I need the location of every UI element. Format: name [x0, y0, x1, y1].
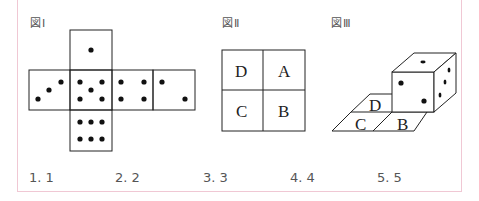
die-net	[29, 30, 195, 151]
choice-1[interactable]: 1. 1	[29, 170, 54, 185]
grid-cell-b: B	[278, 102, 289, 121]
net-face-right1	[112, 70, 153, 110]
choice-5[interactable]: 5. 5	[377, 170, 402, 185]
floor-cell-c: C	[355, 115, 366, 134]
choice-2[interactable]: 2. 2	[115, 170, 140, 185]
grid-cell-d: D	[235, 62, 247, 81]
net-face-bottom	[70, 110, 112, 151]
grid-cell-c: C	[236, 102, 247, 121]
choice-3[interactable]: 3. 3	[203, 170, 228, 185]
net-face-right2	[153, 70, 195, 110]
grid-cell-a: A	[278, 62, 291, 81]
figures-drawing: D A C B D C B	[0, 0, 479, 201]
floor-cell-d: D	[369, 96, 381, 115]
floor-cell-b: B	[397, 115, 408, 134]
choice-4[interactable]: 4. 4	[290, 170, 315, 185]
